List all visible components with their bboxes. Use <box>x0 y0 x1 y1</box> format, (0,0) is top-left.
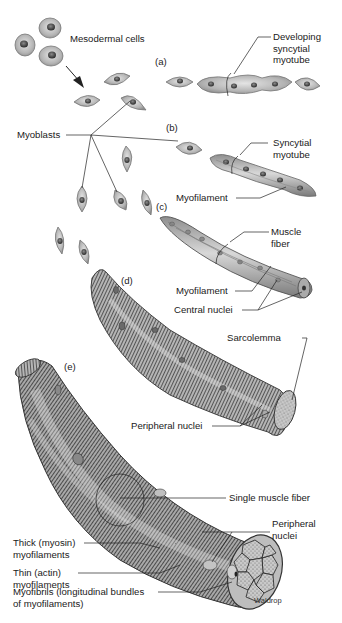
credit-waldrop: Waldrop <box>254 595 282 607</box>
label-syncytial-myotube: Syncytial myotube <box>273 137 311 160</box>
label-myoblasts: Myoblasts <box>17 129 60 141</box>
label-myofilament-c: Myofilament <box>176 285 228 297</box>
label-single-muscle-fiber: Single muscle fiber <box>229 492 310 504</box>
stage-label-c: (c) <box>156 201 167 212</box>
arrow-icon <box>66 66 84 88</box>
label-mesodermal-cells: Mesodermal cells <box>70 33 145 45</box>
label-peripheral-nuclei-d: Peripheral nuclei <box>131 420 202 432</box>
label-sarcolemma: Sarcolemma <box>227 332 281 344</box>
mesodermal-cells <box>15 18 63 66</box>
stage-label-d: (d) <box>121 275 133 286</box>
label-myofilament-b: Myofilament <box>176 192 228 204</box>
label-peripheral-nuclei-e: Peripheral nuclei <box>272 518 316 541</box>
label-muscle-fiber: Muscle fiber <box>271 226 301 249</box>
label-thick-myofilaments: Thick (myosin) myofilaments <box>13 537 75 560</box>
label-myofibrils: Myofibrils (longitudinal bundles of myof… <box>13 586 144 609</box>
stage-a-cells <box>166 75 320 94</box>
stage-label-b: (b) <box>166 122 178 133</box>
stage-label-e: (e) <box>64 361 76 372</box>
label-central-nuclei: Central nuclei <box>174 304 233 316</box>
stage-label-a: (a) <box>155 56 167 67</box>
myoblasts-leaders <box>66 101 178 192</box>
label-developing-syncytial-myotube: Developing syncytial myotube <box>273 31 321 66</box>
stage-b-myotube <box>210 154 316 196</box>
